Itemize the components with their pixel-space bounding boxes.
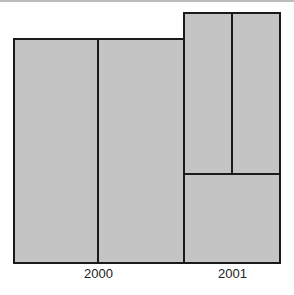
cell-2001-bottom xyxy=(183,173,281,264)
cell-2000-left xyxy=(13,38,100,264)
label-2001: 2001 xyxy=(218,266,247,281)
cell-2001-top-left xyxy=(183,12,234,176)
label-2000: 2000 xyxy=(84,266,113,281)
cell-2000-right xyxy=(97,38,186,264)
cell-2001-top-right xyxy=(231,12,281,176)
top-border-line xyxy=(0,0,294,2)
